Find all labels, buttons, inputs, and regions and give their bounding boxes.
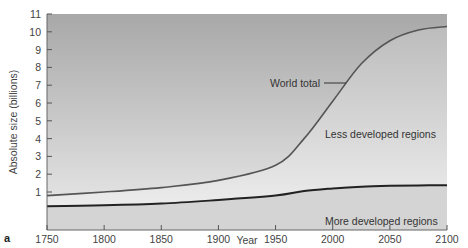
world-total-annotation: World total: [270, 77, 320, 89]
x-axis-label: Year: [236, 234, 258, 246]
panel-label: a: [4, 232, 11, 244]
x-tick-label: 2000: [321, 233, 345, 245]
more-developed-annotation: More developed regions: [325, 215, 438, 227]
y-tick-label: 11: [30, 8, 41, 20]
plot-area: [47, 14, 447, 230]
population-chart: 1234567891011 17501800185019001950200020…: [0, 0, 468, 248]
x-tick-label: 1750: [35, 233, 59, 245]
y-tick-label: 1: [35, 186, 41, 198]
less-developed-annotation: Less developed regions: [325, 128, 436, 140]
y-tick-label: 8: [35, 61, 41, 73]
x-tick-label: 2100: [435, 233, 459, 245]
y-tick-label: 6: [35, 97, 41, 109]
y-tick-label: 4: [35, 133, 41, 145]
x-tick-label: 1800: [92, 233, 116, 245]
y-tick-label: 3: [35, 150, 41, 162]
x-tick-label: 2050: [378, 233, 402, 245]
y-tick-label: 10: [29, 26, 41, 38]
y-tick-label: 5: [35, 115, 41, 127]
y-tick-label: 9: [35, 44, 41, 56]
y-tick-label: 2: [35, 168, 41, 180]
x-tick-label: 1900: [207, 233, 231, 245]
x-tick-label: 1850: [150, 233, 174, 245]
y-axis-label: Absolute size (billions): [7, 70, 19, 174]
y-tick-label: 7: [35, 79, 41, 91]
x-tick-label: 1950: [264, 233, 288, 245]
